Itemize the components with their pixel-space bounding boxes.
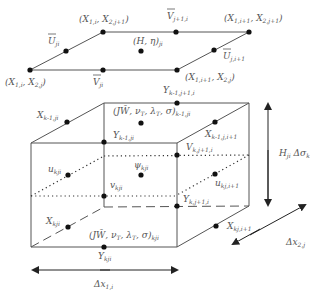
corner-label-i1-j1: (X1,i+1, X2,j+1) <box>224 13 283 25</box>
v-kj1i-label: Vk,j+1,i <box>186 142 213 154</box>
corner-label-i-j: (X1,i, X2,j) <box>5 77 46 89</box>
dx1-dimension-label: Δx1,i <box>93 279 113 290</box>
y-k1-j1i-label: Yk-1,j+1,i <box>163 85 195 97</box>
y-kj1i-label: Yk,j+1,i <box>183 194 209 206</box>
x-kjip1-label: Xkj,i+1 <box>226 221 252 233</box>
x-kji-label: Xkji <box>45 216 60 228</box>
u-kji-label: ukji <box>48 164 61 176</box>
grid-cell-diagram: (X1,i, X2,j+1) (X1,i+1, X2,j+1) (X1,i, X… <box>0 0 319 291</box>
u-bar-ji1-label: Uj,i+1 <box>223 51 245 63</box>
center-top-label: (JW̄, νT, λT, σ)k-1,ji <box>113 105 191 118</box>
psi-kji-label: ψkji <box>134 160 149 172</box>
x-k1-ji-label: Xk-1,ji <box>36 110 59 122</box>
h-eta-label: (H, η)ji <box>133 36 163 48</box>
v-bar-j1i-label: Vj+1,i <box>167 11 188 23</box>
y-k1-ji-label: Yk-1,ji <box>113 130 134 142</box>
dx2-dimension-label: Δx2,j <box>285 237 305 249</box>
x-k1-jip1-label: Xk-1,j,i+1 <box>204 129 237 141</box>
v-bar-ji-label: Vji <box>93 77 103 89</box>
dimension-arrows <box>33 104 305 270</box>
u-kjip1-label: ukj,i+1 <box>215 178 239 190</box>
box-points <box>64 100 218 249</box>
v-kji-label: vkji <box>110 180 123 192</box>
u-bar-ji-label: Uji <box>48 36 59 48</box>
center-bottom-label: (JW̄, νT, λT, σ)kji <box>89 229 159 242</box>
vertical-dimension-label: Hji Δσk <box>278 148 310 160</box>
y-kji-label: Ykji <box>98 251 111 263</box>
corner-label-i-j1: (X1,i, X2,j+1) <box>79 14 129 26</box>
corner-label-i1-j: (X1,i+1, X2,j) <box>185 72 235 84</box>
